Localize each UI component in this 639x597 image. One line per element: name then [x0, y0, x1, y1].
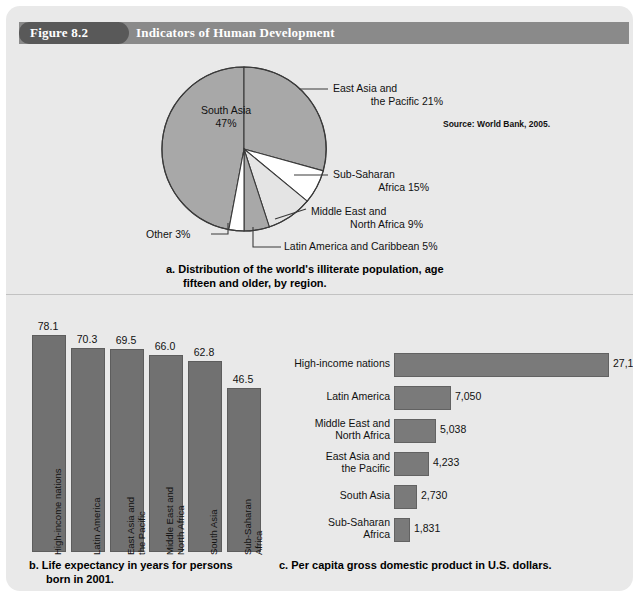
hbar-value-sub-saharan-africa: 1,831 [414, 522, 440, 534]
hbar-value-latin-america: 7,050 [455, 390, 481, 402]
hbar-label-south-asia: South Asia [268, 489, 390, 501]
hbar-south-asia [394, 485, 417, 509]
vbar-label-middle-east-north-africa-line2: North Africa [175, 505, 186, 555]
pie-label-south-asia-line2: 47% [187, 117, 265, 130]
caption-b-line1: b. Life expectancy in years for persons [29, 558, 264, 572]
hbar-label-east-asia-pacific: East Asia and the Pacific [268, 450, 390, 474]
vbar-value-latin-america: 70.3 [69, 333, 105, 345]
vbar-label-latin-america: Latin America [91, 497, 102, 555]
hbar-east-asia-pacific [394, 452, 429, 476]
vbar-label-east-asia-pacific-line2: the Pacific [136, 511, 147, 555]
hbar-sub-saharan-africa [394, 518, 410, 542]
vbar-label-high-income-nations: High-income nations [52, 468, 63, 555]
hbar-middle-east-north-africa [394, 419, 436, 443]
pie-label-east-asia-line2: the Pacific 21% [333, 95, 443, 108]
pie-label-sub-saharan-line2: Africa 15% [333, 181, 429, 194]
hbar-label-middle-east-north-africa: Middle East and North Africa [268, 417, 390, 441]
hbar-label-east-asia-pacific-line1: East Asia and [268, 450, 390, 462]
pie-label-middle-east-line1: Middle East and [311, 205, 423, 218]
hbar-value-high-income-nations: 27,169 [613, 357, 633, 369]
vbar-value-middle-east-north-africa: 66.0 [147, 340, 183, 352]
hbar-label-sub-saharan-africa-line1: Sub-Saharan [268, 516, 390, 528]
vbar-label-sub-saharan-africa-line1: Sub-Saharan [242, 499, 253, 555]
hbar-label-latin-america: Latin America [268, 390, 390, 402]
caption-a-line2: fifteen and older, by region. [166, 276, 486, 290]
hbar-high-income-nations [394, 353, 609, 377]
pie-slice-south-asia [162, 67, 244, 230]
hbar-label-middle-east-north-africa-line2: North Africa [268, 429, 390, 441]
hbar-label-sub-saharan-africa-line2: Africa [268, 528, 390, 540]
pie-label-east-asia: East Asia and the Pacific 21% [333, 82, 443, 108]
vbar-label-middle-east-north-africa-line1: Middle East and [164, 487, 175, 555]
hbar-label-sub-saharan-africa: Sub-Saharan Africa [268, 516, 390, 540]
figure-title: Indicators of Human Development [136, 25, 335, 41]
hbar-value-middle-east-north-africa: 5,038 [440, 423, 466, 435]
vbar-value-east-asia-pacific: 69.5 [108, 334, 144, 346]
figure-header: Figure 8.2 Indicators of Human Developme… [19, 22, 629, 44]
figure-page: Figure 8.2 Indicators of Human Developme… [6, 6, 633, 591]
pie-label-south-asia: South Asia 47% [187, 104, 265, 130]
pie-label-latin-america: Latin America and Caribbean 5% [284, 240, 438, 252]
pie-label-sub-saharan: Sub-Saharan Africa 15% [333, 168, 429, 194]
figure-number-tab-cap [107, 22, 129, 44]
caption-c-line1: c. Per capita gross domestic product in … [279, 558, 619, 572]
caption-a: a. Distribution of the world's illiterat… [166, 262, 486, 290]
vbar-value-sub-saharan-africa: 46.5 [225, 373, 261, 385]
hbar-latin-america [394, 386, 451, 410]
section-divider [6, 294, 633, 295]
hbar-label-high-income-nations: High-income nations [268, 357, 390, 369]
figure-number-label: Figure 8.2 [30, 25, 88, 41]
caption-b-line2: born in 2001. [29, 572, 264, 586]
bar-chart-gdp-per-capita: High-income nations Latin America Middle… [268, 348, 628, 548]
vbar-label-sub-saharan-africa-line2: Africa [253, 531, 264, 555]
pie-label-other: Other 3% [146, 228, 190, 240]
caption-c: c. Per capita gross domestic product in … [279, 558, 619, 572]
caption-b: b. Life expectancy in years for persons … [29, 558, 264, 586]
pie-label-middle-east-line2: North Africa 9% [311, 218, 423, 231]
hbar-value-south-asia: 2,730 [421, 489, 447, 501]
pie-label-sub-saharan-line1: Sub-Saharan [333, 168, 429, 181]
vbar-label-south-asia: South Asia [208, 510, 219, 555]
pie-label-south-asia-line1: South Asia [187, 104, 265, 117]
hbar-label-middle-east-north-africa-line1: Middle East and [268, 417, 390, 429]
vbar-value-south-asia: 62.8 [186, 346, 222, 358]
hbar-value-east-asia-pacific: 4,233 [433, 456, 459, 468]
hbar-label-east-asia-pacific-line2: the Pacific [268, 462, 390, 474]
pie-label-middle-east: Middle East and North Africa 9% [311, 205, 423, 231]
caption-a-line1: a. Distribution of the world's illiterat… [166, 262, 486, 276]
bar-chart-life-expectancy: 78.1 70.3 69.5 66.0 62.8 46.5 High-incom… [28, 318, 258, 568]
vbar-value-high-income-nations: 78.1 [30, 320, 66, 332]
pie-label-east-asia-line1: East Asia and [333, 82, 443, 95]
vbar-label-east-asia-pacific-line1: East Asia and [125, 497, 136, 555]
